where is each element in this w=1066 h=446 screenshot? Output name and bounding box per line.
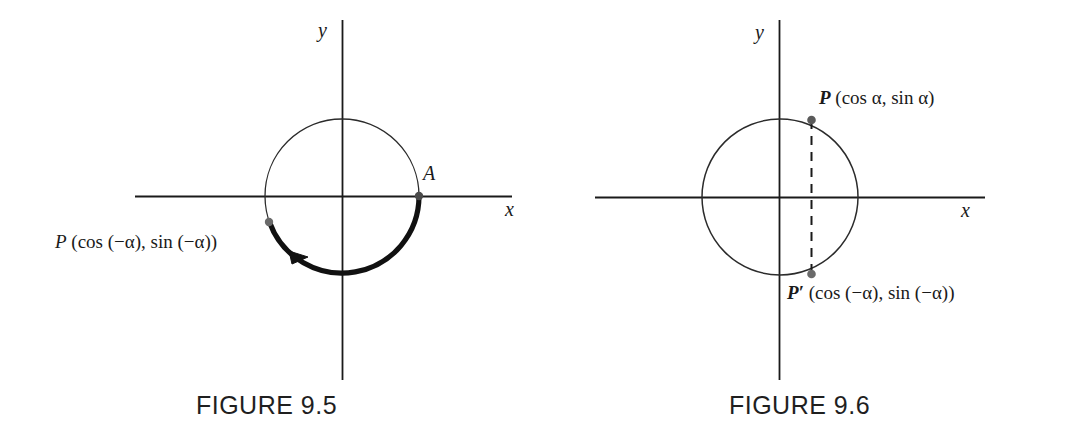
figure-9-5: y x A P (cos (−α), sin (−α)) FIGURE 9.5	[0, 0, 533, 446]
point-p-coords: (cos (−α), sin (−α))	[67, 231, 218, 252]
x-axis-label: x	[505, 199, 514, 219]
figure-9-6-graphic	[533, 0, 1066, 446]
point-p-prime-dot	[807, 270, 816, 279]
point-a-dot	[415, 192, 423, 200]
point-p-prime-coords: (cos (−α), sin (−α))	[804, 282, 955, 303]
figure-page: y x A P (cos (−α), sin (−α)) FIGURE 9.5	[0, 0, 1066, 446]
point-a-label: A	[423, 163, 435, 183]
point-p-dot	[265, 218, 273, 226]
y-axis-label: y	[755, 22, 764, 42]
x-axis-label: x	[961, 200, 970, 220]
figure-9-5-caption: FIGURE 9.5	[0, 393, 533, 418]
point-p-prime-label: P′ (cos (−α), sin (−α))	[787, 283, 955, 302]
figure-9-6: y x P (cos α, sin α) P′ (cos (−α), sin (…	[533, 0, 1066, 446]
point-p-label: P (cos (−α), sin (−α))	[55, 232, 217, 251]
point-p-label: P (cos α, sin α)	[819, 88, 934, 107]
point-p-symbol: P	[819, 87, 831, 108]
point-p-prime-symbol: P′	[787, 282, 804, 303]
y-axis-label: y	[318, 20, 327, 40]
figure-9-5-graphic	[0, 0, 533, 446]
point-p-coords: (cos α, sin α)	[831, 87, 935, 108]
point-p-dot	[807, 116, 816, 125]
point-p-symbol: P	[55, 231, 67, 252]
figure-9-6-caption: FIGURE 9.6	[533, 393, 1066, 418]
